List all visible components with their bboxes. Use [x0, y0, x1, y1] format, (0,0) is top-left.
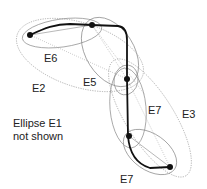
data-point: [167, 164, 173, 170]
note-line-1: Ellipse E1: [13, 117, 62, 129]
main-curve: [30, 24, 170, 168]
connector-p4-p5: [129, 136, 170, 167]
label-e6: E7: [148, 104, 161, 116]
ellipse-e2: [7, 4, 152, 106]
label-e2: E2: [32, 82, 45, 94]
data-point: [124, 76, 130, 82]
ellipse-diagram: E6 E2 E5 E7 E3 E7 Ellipse E1 not shown: [0, 0, 207, 189]
note-line-2: not shown: [13, 130, 63, 142]
data-point: [27, 32, 33, 38]
label-e4: E6: [44, 52, 57, 64]
label-e3: E3: [182, 108, 195, 120]
ellipse-e5: [70, 7, 151, 97]
data-point: [89, 22, 95, 28]
data-point: [126, 133, 132, 139]
connector-p2-p3: [92, 25, 127, 79]
label-e7: E7: [120, 173, 133, 185]
label-e5: E5: [83, 76, 96, 88]
